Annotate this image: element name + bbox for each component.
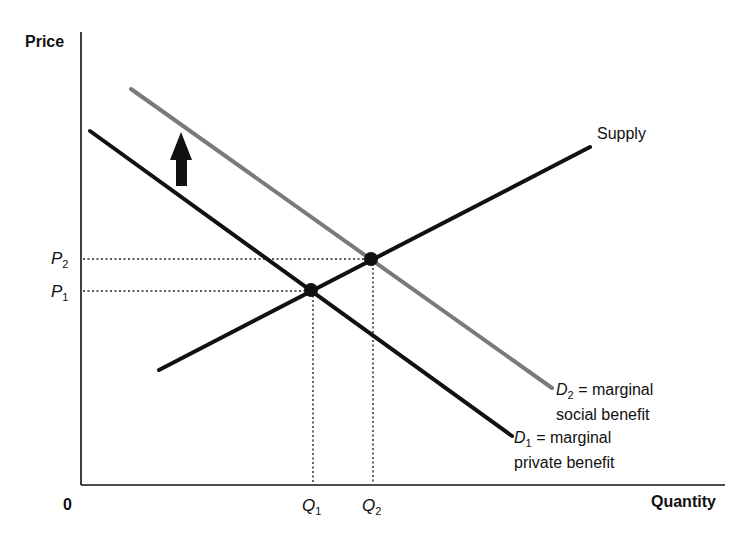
d1-label-line1: D1 = marginal <box>514 428 615 453</box>
supply-demand-chart <box>0 0 749 546</box>
d1-marginal-private-benefit-curve <box>90 131 512 436</box>
d2-symbol: D <box>556 381 568 398</box>
p1-label: P1 <box>51 283 68 303</box>
equilibrium-point-2 <box>364 252 378 266</box>
d1-label-line2: private benefit <box>514 453 615 472</box>
q1-symbol: Q <box>302 496 315 515</box>
supply-label: Supply <box>597 126 646 142</box>
p2-label: P2 <box>51 250 68 270</box>
q1-label: Q1 <box>302 497 321 517</box>
d2-label-line2: social benefit <box>556 405 653 424</box>
d1-label: D1 = marginal private benefit <box>514 428 615 472</box>
q1-subscript: 1 <box>315 505 321 517</box>
up-arrow-icon <box>170 132 192 186</box>
p1-symbol: P <box>51 282 62 301</box>
d2-label-line1: D2 = marginal <box>556 380 653 405</box>
d2-label-text: = marginal <box>574 381 654 398</box>
x-axis-label: Quantity <box>651 494 716 510</box>
q2-label: Q2 <box>362 497 381 517</box>
p2-symbol: P <box>51 249 62 268</box>
d1-label-text: = marginal <box>532 429 612 446</box>
d1-symbol: D <box>514 429 526 446</box>
y-axis-label: Price <box>25 34 64 50</box>
d2-label: D2 = marginal social benefit <box>556 380 653 424</box>
p1-subscript: 1 <box>62 291 68 303</box>
origin-label: 0 <box>63 497 72 513</box>
equilibrium-point-1 <box>304 283 318 297</box>
d2-marginal-social-benefit-curve <box>131 89 552 388</box>
q2-symbol: Q <box>362 496 375 515</box>
q2-subscript: 2 <box>375 505 381 517</box>
p2-subscript: 2 <box>62 258 68 270</box>
